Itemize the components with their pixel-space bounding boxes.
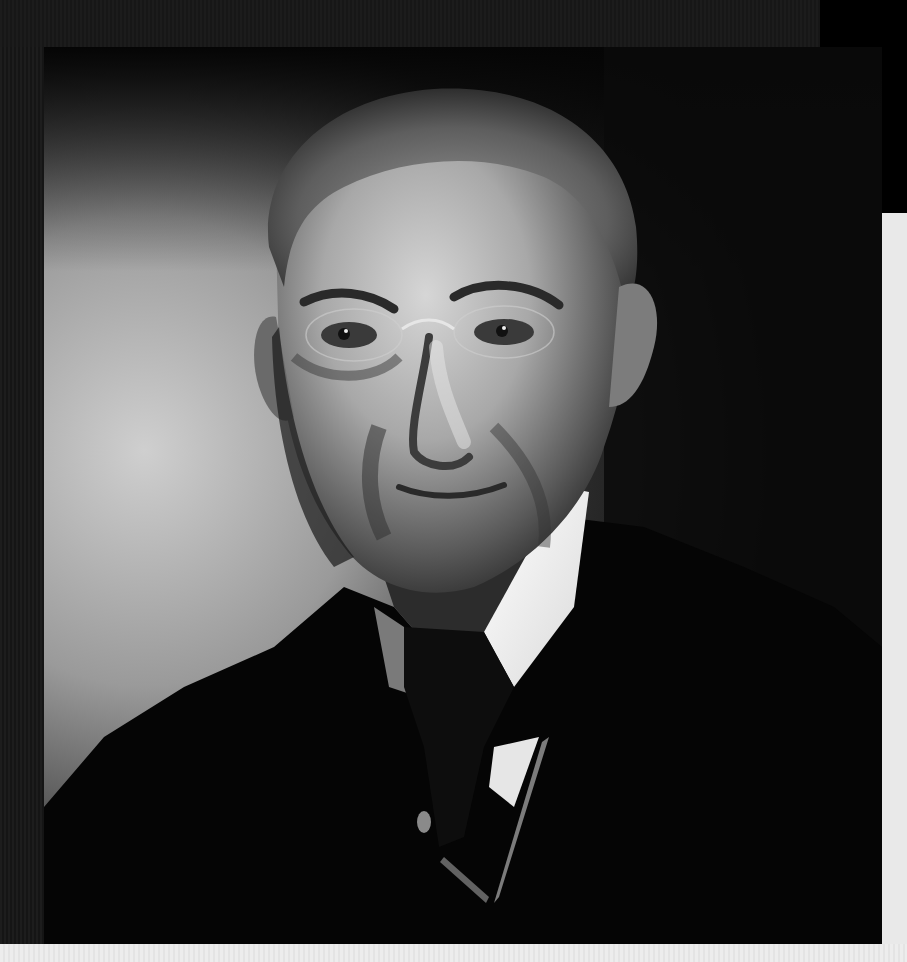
portrait-photo	[44, 47, 882, 944]
bottom-strip	[0, 944, 907, 962]
portrait-illustration	[44, 47, 882, 944]
frame-left	[0, 47, 44, 944]
right-panel	[882, 213, 907, 962]
frame-top	[0, 0, 820, 47]
tie-pin	[417, 811, 431, 833]
black-band	[882, 47, 907, 213]
